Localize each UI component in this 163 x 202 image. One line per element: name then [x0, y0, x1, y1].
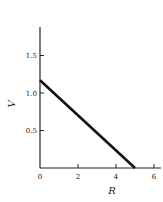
data-line — [40, 80, 135, 168]
x-tick-label: 6 — [152, 173, 157, 181]
x-tick-label: 4 — [114, 173, 119, 181]
y-tick-label: 0.5 — [26, 127, 37, 135]
y-tick-label: 1.5 — [26, 52, 37, 60]
y-tick-label: 1.0 — [26, 90, 37, 98]
y-axis-label: V — [6, 99, 17, 108]
x-axis-label: R — [107, 185, 116, 196]
x-tick-label: 2 — [76, 173, 80, 181]
line-chart: 0.51.01.50246 R V — [0, 0, 163, 202]
data-series — [40, 80, 135, 168]
x-tick-label: 0 — [38, 173, 42, 181]
ticks: 0.51.01.50246 — [26, 52, 157, 181]
